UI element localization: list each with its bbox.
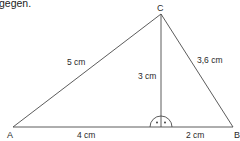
right-angle-dot-right — [164, 122, 166, 124]
intro-text: gegen. — [0, 0, 31, 9]
vertex-label-c: C — [157, 3, 164, 13]
label-altitude: 3 cm — [138, 71, 156, 81]
label-side-bc: 3,6 cm — [197, 55, 223, 65]
label-segment-fb: 2 cm — [186, 130, 204, 140]
label-segment-af: 4 cm — [77, 130, 95, 140]
triangle-figure — [0, 0, 240, 141]
right-angle-dot-left — [156, 122, 158, 124]
side-bc — [161, 14, 233, 127]
vertex-label-b: B — [234, 130, 240, 140]
triangle-diagram: gegen. C A B 5 cm 3,6 cm 3 cm 4 cm 2 cm — [0, 0, 240, 141]
vertex-label-a: A — [7, 130, 13, 140]
label-side-ac: 5 cm — [67, 57, 85, 67]
